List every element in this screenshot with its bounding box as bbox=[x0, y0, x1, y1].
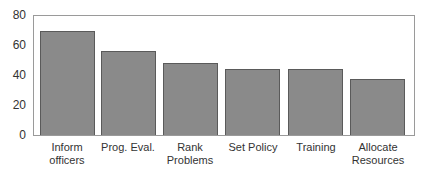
bar-training bbox=[288, 69, 343, 135]
x-label-training: Training bbox=[281, 141, 351, 154]
bar-prog-eval bbox=[101, 51, 156, 135]
y-tick-0: 0 bbox=[0, 129, 26, 141]
x-label-allocate-resources: Allocate Resources bbox=[343, 141, 413, 167]
x-label-prog-eval: Prog. Eval. bbox=[93, 141, 163, 154]
y-tick-60: 60 bbox=[0, 39, 26, 51]
y-tick-80: 80 bbox=[0, 9, 26, 21]
bar-allocate-resources bbox=[350, 79, 405, 135]
bar-set-policy bbox=[225, 69, 280, 135]
x-axis-line bbox=[33, 135, 415, 136]
x-label-set-policy: Set Policy bbox=[218, 141, 288, 154]
bar-inform-officers bbox=[40, 31, 95, 135]
x-label-rank-problems: Rank Problems bbox=[155, 141, 225, 167]
y-tick-20: 20 bbox=[0, 99, 26, 111]
bar-rank-problems bbox=[163, 63, 218, 135]
x-label-inform-officers: Inform officers bbox=[32, 141, 102, 167]
y-tick-40: 40 bbox=[0, 69, 26, 81]
bar-chart: 0 20 40 60 80 Inform officers Prog. Eval… bbox=[0, 0, 424, 173]
